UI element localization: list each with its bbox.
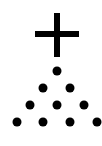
dot-icon bbox=[93, 118, 102, 127]
dot-icon bbox=[26, 101, 35, 110]
tetractys-figure bbox=[0, 0, 102, 146]
dot-icon bbox=[39, 118, 48, 127]
plus-vertical-bar bbox=[54, 13, 60, 57]
dot-icon bbox=[80, 101, 89, 110]
dot-icon bbox=[53, 101, 62, 110]
dot-icon bbox=[13, 118, 22, 127]
dot-icon bbox=[39, 84, 48, 93]
dot-icon bbox=[66, 84, 75, 93]
dot-icon bbox=[53, 67, 62, 76]
dot-icon bbox=[66, 118, 75, 127]
